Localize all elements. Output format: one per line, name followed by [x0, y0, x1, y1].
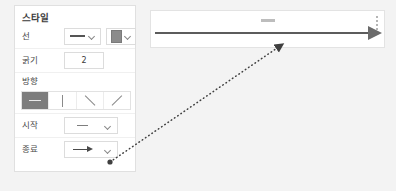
shape-canvas[interactable]: [150, 10, 385, 48]
direction-row: 방향: [15, 72, 135, 90]
line-row-controls: [64, 28, 136, 45]
diagonal-up-line-icon: [111, 95, 123, 107]
line-style-preview-icon: [70, 35, 85, 37]
direction-diagonal-up-button[interactable]: [104, 92, 130, 109]
line-row-label: 선: [15, 31, 64, 42]
vertical-line-icon: [56, 95, 68, 107]
right-dots-handle[interactable]: [376, 16, 379, 30]
direction-diagonal-down-button[interactable]: [77, 92, 104, 109]
direction-row-label: 방향: [15, 76, 64, 87]
start-row-controls: [64, 117, 135, 134]
chevron-down-icon: [104, 124, 111, 128]
thickness-row-label: 굵기: [15, 55, 64, 66]
line-cap-none-icon: [71, 121, 95, 131]
end-cap-dropdown[interactable]: [64, 141, 118, 158]
direction-vertical-button[interactable]: [49, 92, 76, 109]
direction-horizontal-button[interactable]: [22, 92, 49, 109]
end-row-controls: [64, 141, 135, 158]
chevron-down-icon: [125, 34, 132, 38]
thickness-row: 굵기 2: [15, 48, 135, 72]
line-color-dropdown[interactable]: [106, 28, 136, 45]
style-panel: 스타일 선 굵기 2 방향: [14, 5, 136, 172]
line-cap-arrow-icon: [71, 145, 95, 155]
app-root: 스타일 선 굵기 2 방향: [0, 0, 396, 191]
line-style-dropdown[interactable]: [64, 28, 101, 45]
color-swatch-icon: [111, 30, 122, 43]
start-cap-dropdown[interactable]: [64, 117, 118, 134]
thickness-input[interactable]: 2: [64, 52, 104, 69]
horizontal-line-icon: [29, 95, 41, 107]
start-row: 시작: [15, 113, 135, 137]
arrow-head-shape[interactable]: [368, 26, 382, 40]
arrow-line-shape[interactable]: [155, 32, 370, 34]
panel-title: 스타일: [15, 6, 135, 24]
diagonal-down-line-icon: [84, 95, 96, 107]
chevron-down-icon: [88, 34, 95, 38]
line-row: 선: [15, 24, 135, 48]
top-center-handle[interactable]: [261, 19, 275, 22]
start-row-label: 시작: [15, 120, 64, 131]
thickness-row-controls: 2: [64, 52, 135, 69]
chevron-down-icon: [104, 148, 111, 152]
end-row: 종료: [15, 137, 135, 161]
end-row-label: 종료: [15, 144, 64, 155]
direction-button-group: [21, 91, 131, 110]
